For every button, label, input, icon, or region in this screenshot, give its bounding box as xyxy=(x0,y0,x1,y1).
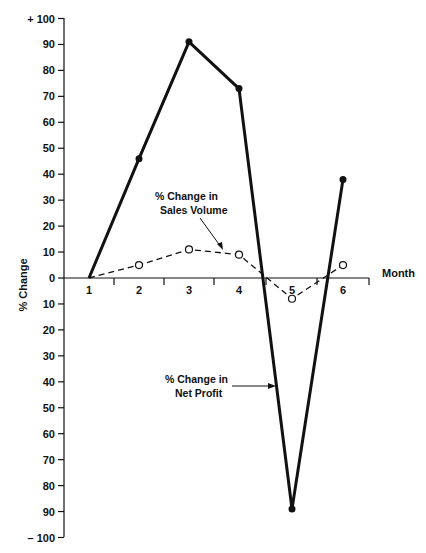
y-tick-label: 60 xyxy=(43,116,55,128)
y-tick-label: – 100 xyxy=(27,532,55,544)
sales-volume-marker xyxy=(289,295,296,302)
y-tick-label: 30 xyxy=(43,350,55,362)
net-profit-marker xyxy=(236,85,243,92)
profit-annotation-line2: Net Profit xyxy=(175,387,223,399)
y-tick-label: 90 xyxy=(43,38,55,50)
y-tick-label: + 100 xyxy=(27,13,55,25)
line-chart: + 10090807060504030201001020304050607080… xyxy=(0,0,426,553)
sales-annotation-line2: Sales Volume xyxy=(160,204,228,216)
y-tick-label: 50 xyxy=(43,402,55,414)
y-tick-label: 70 xyxy=(43,90,55,102)
net-profit-marker xyxy=(340,176,347,183)
sales-annotation-line1: % Change in xyxy=(155,190,218,202)
x-tick-label: 1 xyxy=(86,284,92,296)
net-profit-marker xyxy=(186,38,193,45)
y-tick-label: 80 xyxy=(43,480,55,492)
sales-volume-marker xyxy=(236,251,243,258)
y-tick-label: 60 xyxy=(43,428,55,440)
sales-volume-marker xyxy=(340,262,347,269)
net-profit-marker xyxy=(136,155,143,162)
x-tick-label: 6 xyxy=(340,284,346,296)
sales-volume-series xyxy=(89,246,347,302)
y-tick-label: 10 xyxy=(43,298,55,310)
y-axis-title: % Change xyxy=(17,258,29,311)
x-axis: 123456 xyxy=(64,278,369,296)
sales-volume-marker xyxy=(186,246,193,253)
x-tick-label: 2 xyxy=(136,284,142,296)
net-profit-annotation: % Change in Net Profit xyxy=(165,373,276,399)
y-tick-label: 0 xyxy=(49,272,55,284)
y-tick-label: 40 xyxy=(43,376,55,388)
y-tick-label: 20 xyxy=(43,220,55,232)
y-tick-label: 40 xyxy=(43,168,55,180)
y-tick-label: 30 xyxy=(43,194,55,206)
sales-volume-line xyxy=(89,249,343,298)
profit-annotation-line1: % Change in xyxy=(165,373,228,385)
sales-annotation-arrow xyxy=(200,218,221,247)
net-profit-line xyxy=(89,42,343,509)
sales-volume-annotation: % Change in Sales Volume xyxy=(155,190,228,250)
x-tick-label: 3 xyxy=(186,284,192,296)
y-tick-label: 80 xyxy=(43,64,55,76)
y-tick-label: 20 xyxy=(43,324,55,336)
y-tick-label: 70 xyxy=(43,454,55,466)
y-tick-label: 50 xyxy=(43,142,55,154)
sales-volume-marker xyxy=(136,262,143,269)
y-tick-label: 90 xyxy=(43,506,55,518)
net-profit-series xyxy=(89,38,347,512)
net-profit-marker xyxy=(289,505,296,512)
x-axis-title: Month xyxy=(382,267,415,279)
x-tick-label: 4 xyxy=(236,284,243,296)
x-tick-label: 5 xyxy=(289,284,295,296)
y-axis: + 10090807060504030201001020304050607080… xyxy=(27,13,64,544)
y-tick-label: 10 xyxy=(43,246,55,258)
